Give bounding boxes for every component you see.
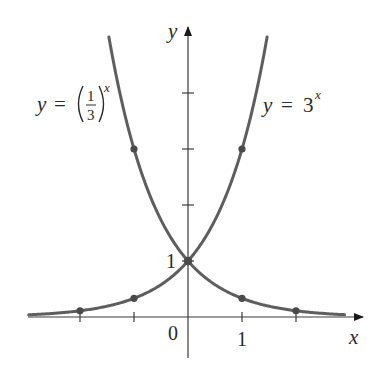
data-point xyxy=(76,307,83,314)
right-label-equals: = xyxy=(281,93,293,117)
right-label-exponent: x xyxy=(314,87,321,102)
left-paren xyxy=(79,86,84,122)
x-tick-label-1: 1 xyxy=(237,328,247,350)
data-point xyxy=(238,295,245,302)
y-axis-label: y xyxy=(166,19,178,43)
data-point xyxy=(184,257,192,265)
left-label-exponent: x xyxy=(103,80,110,95)
left-curve-label: y = 1 3 x xyxy=(35,80,110,123)
data-point xyxy=(292,307,299,314)
curves xyxy=(29,37,345,315)
data-point xyxy=(238,145,245,152)
left-label-equals: = xyxy=(54,92,66,116)
exponential-chart: y x 0 1 1 y = 1 3 x y = 3 x xyxy=(0,0,383,392)
x-axis-label: x xyxy=(348,325,359,349)
data-point xyxy=(130,295,137,302)
fraction-numerator: 1 xyxy=(87,88,95,104)
y-tick-label-1: 1 xyxy=(166,250,176,272)
right-paren xyxy=(99,86,104,122)
origin-label: 0 xyxy=(168,322,178,344)
curve-three-power-x xyxy=(29,37,267,315)
right-curve-label: y = 3 x xyxy=(261,87,321,117)
fraction-denominator: 3 xyxy=(87,107,95,123)
curve-one-third-power-x xyxy=(109,37,345,315)
right-label-base: 3 xyxy=(303,93,314,117)
data-point xyxy=(130,145,137,152)
right-label-y: y xyxy=(261,93,273,117)
left-label-y: y xyxy=(35,92,47,116)
